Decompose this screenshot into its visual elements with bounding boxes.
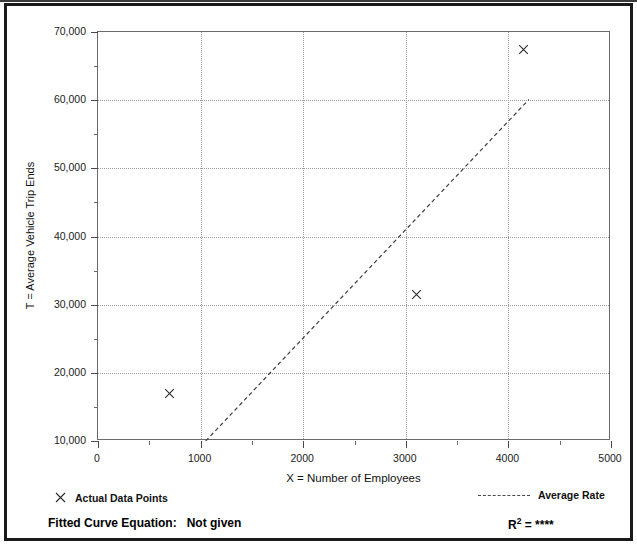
legend-label-actual-points: Actual Data Points	[75, 492, 168, 504]
y-axis-tick-label: 20,000	[54, 367, 86, 378]
y-axis-tick	[91, 168, 98, 169]
y-axis-tick	[91, 305, 98, 306]
x-axis-tick	[508, 441, 509, 448]
x-axis-minor-tick	[355, 441, 356, 445]
y-axis-tick	[91, 32, 98, 33]
data-point-marker	[411, 289, 422, 300]
page-crop-artifact	[0, 0, 637, 2]
y-axis-tick	[91, 441, 98, 442]
data-point-marker	[164, 388, 175, 399]
x-axis-tick	[98, 441, 99, 448]
r-squared-exponent: 2	[517, 516, 522, 526]
x-axis-tick	[303, 441, 304, 448]
r-squared-number: ****	[535, 518, 554, 532]
y-axis-title: T = Average Vehicle Trip Ends	[24, 0, 40, 31]
x-axis-tick	[611, 441, 612, 448]
fitted-curve-equation-label: Fitted Curve Equation:	[48, 516, 177, 530]
x-marker-icon	[55, 489, 66, 507]
y-axis-tick-label: 10,000	[54, 435, 86, 446]
y-axis-tick	[91, 237, 98, 238]
average-rate-line-svg	[98, 32, 611, 441]
x-axis-tick-label: 2000	[291, 453, 314, 464]
x-axis-tick	[406, 441, 407, 448]
r-squared-value: R2 = ****	[508, 516, 554, 532]
x-axis-tick-label: 3000	[393, 453, 416, 464]
fitted-curve-equation-value: Not given	[187, 516, 242, 530]
dashed-line-icon	[478, 495, 530, 496]
x-axis-minor-tick	[457, 441, 458, 445]
fitted-curve-equation: Fitted Curve Equation: Not given	[48, 516, 241, 530]
y-axis-tick-label: 70,000	[54, 26, 86, 37]
legend-item-average-rate: Average Rate	[478, 489, 605, 501]
r-squared-label: R	[508, 518, 517, 532]
y-axis-tick	[91, 100, 98, 101]
x-axis-minor-tick	[252, 441, 253, 445]
x-axis-minor-tick	[560, 441, 561, 445]
x-axis-tick-label: 1000	[188, 453, 211, 464]
x-axis-title: X = Number of Employees	[97, 472, 610, 484]
chart-page: T = Average Vehicle Trip Ends 10,00020,0…	[0, 0, 637, 545]
y-axis-title-text: T = Average Vehicle Trip Ends	[24, 31, 36, 440]
x-axis-tick	[201, 441, 202, 448]
legend-item-actual-points: Actual Data Points	[55, 489, 168, 507]
y-axis-tick-label: 30,000	[54, 299, 86, 310]
chart-footer: Fitted Curve Equation: Not given R2 = **…	[0, 516, 637, 538]
y-axis-tick	[91, 373, 98, 374]
r-squared-equals: =	[525, 518, 532, 532]
x-axis-tick-label: 4000	[496, 453, 519, 464]
data-point-marker	[518, 44, 529, 55]
y-axis-tick-label: 60,000	[54, 94, 86, 105]
chart-legend: Actual Data Points Average Rate	[0, 489, 637, 511]
x-axis-tick-label: 0	[94, 453, 100, 464]
legend-label-average-rate: Average Rate	[538, 489, 605, 501]
y-axis-tick-label: 50,000	[54, 162, 86, 173]
x-axis-minor-tick	[149, 441, 150, 445]
x-axis-tick-label: 5000	[598, 453, 621, 464]
plot-area	[97, 31, 610, 440]
y-axis-tick-label: 40,000	[54, 231, 86, 242]
